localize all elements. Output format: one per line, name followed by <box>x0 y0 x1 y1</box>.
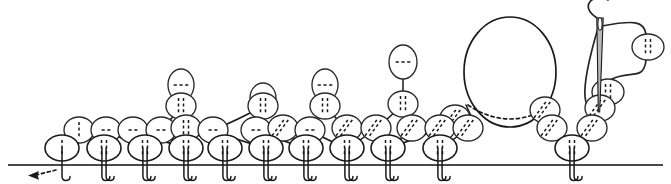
stitch-symbol <box>289 135 323 161</box>
stitch-outline <box>555 135 589 161</box>
stitch-symbol <box>330 135 364 161</box>
stitches-layer <box>45 34 664 161</box>
stitch-symbol <box>388 91 418 117</box>
stitch-outline <box>87 135 121 161</box>
start-arrow-line <box>36 170 56 175</box>
stitch-outline <box>249 135 283 161</box>
stitch-outline <box>289 135 323 161</box>
stitch-diagram-svg: Stitch pattern diagram <box>0 0 671 184</box>
stitch-outline <box>388 91 418 117</box>
stitch-outline <box>632 34 664 60</box>
stitch-symbol <box>555 135 589 161</box>
stitch-outline <box>208 135 242 161</box>
stitch-outline <box>423 135 457 161</box>
stitch-symbol <box>208 135 242 161</box>
stitch-symbol <box>389 45 417 79</box>
stitch-symbol <box>249 135 283 161</box>
yarn-return-segment <box>612 60 646 79</box>
stitch-symbol <box>371 135 405 161</box>
stitch-symbol <box>632 34 664 60</box>
stitch-symbol <box>453 115 483 141</box>
stitch-symbol <box>423 135 457 161</box>
stitch-symbol <box>128 135 162 161</box>
yarn-to-top-stitch <box>602 22 646 34</box>
stitch-outline <box>169 135 203 161</box>
stitch-outline <box>128 135 162 161</box>
needle-eye-icon <box>598 18 602 30</box>
stitch-outline <box>310 93 340 119</box>
stitch-symbol <box>397 115 427 141</box>
diagram-canvas: Stitch pattern diagram <box>0 0 671 184</box>
start-arrow-head-icon <box>28 171 39 180</box>
stitch-outline <box>453 115 483 141</box>
stitch-outline <box>330 135 364 161</box>
start-arrow-layer <box>28 170 56 180</box>
stitch-outline <box>397 115 427 141</box>
stitch-symbol <box>310 93 340 119</box>
stitch-outline <box>371 135 405 161</box>
yarn-tail <box>588 0 608 18</box>
stitch-outline <box>248 93 278 119</box>
stitch-symbol <box>87 135 121 161</box>
stitch-symbol <box>248 93 278 119</box>
stitch-symbol <box>169 135 203 161</box>
